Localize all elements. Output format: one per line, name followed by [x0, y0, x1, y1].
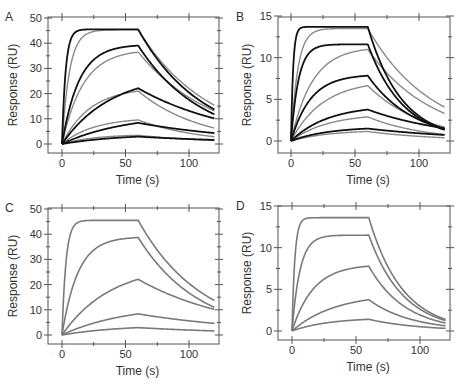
y-tick-label: 10 — [260, 52, 272, 64]
y-tick-label: 10 — [30, 113, 42, 125]
x-axis-title: Time (s) — [116, 364, 160, 378]
y-tick-label: 0 — [266, 135, 272, 147]
y-axis-title: Response (RU) — [240, 44, 254, 127]
y-axis-title: Response (RU) — [6, 44, 20, 127]
plot-frame — [48, 17, 219, 153]
sensorgram-curve-fit — [291, 129, 445, 141]
x-axis-title: Time (s) — [116, 173, 160, 187]
panel-label: A — [5, 10, 13, 24]
x-tick-label: 50 — [350, 344, 362, 356]
plot-frame — [48, 208, 219, 344]
sensorgram-curve-simulated — [292, 319, 446, 331]
x-tick-label: 100 — [180, 348, 198, 360]
x-axis-title: Time (s) — [346, 360, 390, 374]
sensorgram-figure: 05010001020304050Time (s)Response (RU)A0… — [0, 0, 464, 386]
x-axis-title: Time (s) — [346, 173, 390, 187]
y-tick-label: 50 — [30, 12, 42, 24]
x-tick-label: 0 — [59, 348, 65, 360]
y-tick-label: 40 — [30, 37, 42, 49]
x-tick-label: 50 — [119, 348, 131, 360]
y-tick-label: 5 — [266, 283, 272, 295]
x-tick-label: 0 — [289, 344, 295, 356]
y-tick-label: 30 — [30, 62, 42, 74]
panel-label: D — [236, 199, 245, 213]
y-tick-label: 0 — [36, 138, 42, 150]
sensorgram-curve-fit — [62, 137, 214, 144]
panel-b: 050100051015Time (s)Response (RU)B — [236, 10, 454, 187]
y-axis-title: Response (RU) — [240, 232, 254, 315]
y-tick-label: 0 — [36, 329, 42, 341]
y-tick-label: 15 — [260, 10, 272, 22]
y-tick-label: 15 — [260, 200, 272, 212]
sensorgram-curve-simulated — [292, 266, 446, 331]
x-tick-label: 50 — [349, 157, 361, 169]
y-tick-label: 20 — [30, 279, 42, 291]
x-tick-label: 0 — [288, 157, 294, 169]
panel-label: B — [236, 10, 244, 24]
y-tick-label: 10 — [260, 242, 272, 254]
y-tick-label: 10 — [30, 304, 42, 316]
y-tick-label: 5 — [266, 93, 272, 105]
y-tick-label: 0 — [266, 325, 272, 337]
x-tick-label: 0 — [59, 157, 65, 169]
x-tick-label: 100 — [180, 157, 198, 169]
panel-label: C — [5, 201, 14, 215]
y-tick-label: 30 — [30, 253, 42, 265]
panel-c: 05010001020304050Time (s)Response (RU)C — [5, 201, 223, 378]
x-tick-label: 50 — [119, 157, 131, 169]
y-axis-title: Response (RU) — [6, 235, 20, 318]
x-tick-label: 100 — [410, 157, 428, 169]
y-tick-label: 20 — [30, 88, 42, 100]
panel-d: 050100051015Time (s)Response (RU)D — [236, 199, 454, 374]
sensorgram-curve-simulated — [62, 328, 214, 335]
y-tick-label: 50 — [30, 203, 42, 215]
panel-a: 05010001020304050Time (s)Response (RU)A — [5, 10, 223, 187]
x-tick-label: 100 — [411, 344, 429, 356]
y-tick-label: 40 — [30, 228, 42, 240]
